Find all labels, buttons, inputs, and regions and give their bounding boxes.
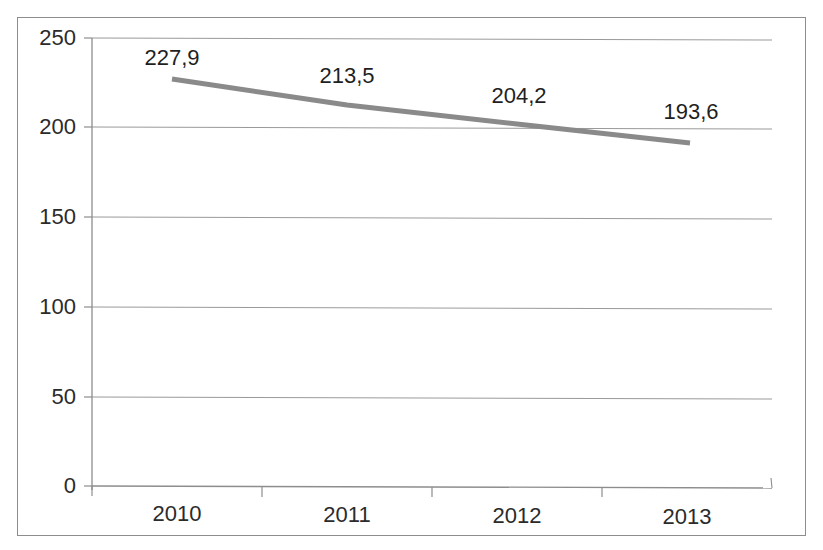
x-tick-label-2013: 2013: [663, 506, 712, 528]
y-tick-label-0: 0: [8, 475, 76, 497]
y-tick-label-200: 200: [8, 116, 76, 138]
data-label-2010: 227,9: [144, 47, 199, 69]
gridlines-horizontal: [92, 38, 772, 399]
y-axis-ticks: [84, 38, 92, 486]
data-label-2013: 193,6: [663, 101, 718, 123]
line-chart: 250 200 150 100 50 0 2010 2011 2012 2013…: [0, 0, 823, 550]
y-tick-label-150: 150: [8, 206, 76, 228]
y-tick-label-250: 250: [8, 27, 76, 49]
data-label-2011: 213,5: [319, 65, 374, 87]
chart-canvas: [0, 0, 823, 550]
data-label-2012: 204,2: [491, 85, 546, 107]
x-tick-label-2011: 2011: [323, 504, 370, 526]
y-tick-label-50: 50: [8, 386, 76, 408]
series-line: [172, 79, 690, 143]
x-tick-label-2012: 2012: [493, 505, 542, 527]
chart-screenshot: 250 200 150 100 50 0 2010 2011 2012 2013…: [0, 0, 823, 550]
y-tick-label-100: 100: [8, 296, 76, 318]
x-tick-label-2010: 2010: [153, 503, 202, 525]
x-axis: [92, 478, 772, 488]
